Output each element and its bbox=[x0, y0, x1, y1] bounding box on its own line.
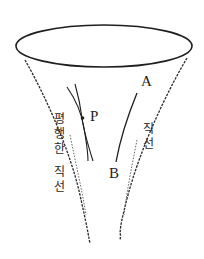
right-caption-char: 선 bbox=[141, 138, 155, 153]
right-caption-char: 직 bbox=[141, 123, 155, 138]
point-p-label: P bbox=[90, 109, 98, 124]
point-p-marker bbox=[81, 116, 85, 120]
funnel-inner-left-guide bbox=[70, 135, 86, 215]
left-caption-char: 평 bbox=[52, 113, 66, 128]
funnel-surface-diagram bbox=[0, 0, 204, 259]
left-caption-char: 한 bbox=[52, 143, 66, 158]
left-caption-parallel-lines: 평 행 한 직 선 bbox=[52, 113, 66, 196]
point-b-label: B bbox=[109, 166, 119, 181]
left-caption-char: 선 bbox=[52, 181, 66, 196]
line-a-b bbox=[116, 93, 137, 162]
left-caption-char: 직 bbox=[52, 166, 66, 181]
left-caption-char: 행 bbox=[52, 128, 66, 143]
point-a-label: A bbox=[141, 74, 152, 89]
funnel-inner-right-guide bbox=[124, 140, 137, 215]
parallel-line-1 bbox=[67, 87, 88, 161]
right-caption-straight-line: 직 선 bbox=[141, 123, 155, 153]
funnel-rim bbox=[16, 25, 192, 67]
